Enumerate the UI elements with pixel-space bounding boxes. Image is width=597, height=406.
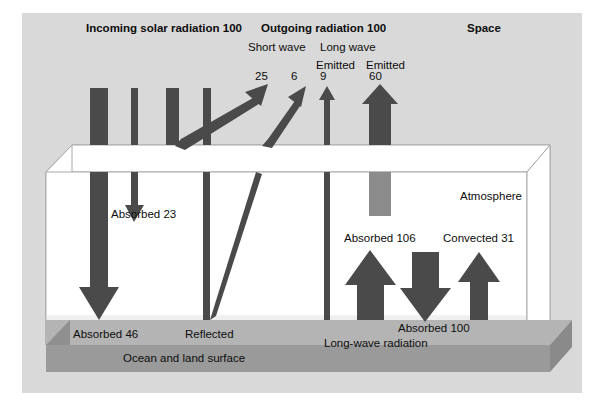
label-long-wave-radiation: Long-wave radiation xyxy=(324,337,428,349)
incoming-bar-1 xyxy=(90,88,108,145)
arrow-emitted-60 xyxy=(362,84,398,145)
incoming-bar-3 xyxy=(166,88,179,145)
header-incoming: Incoming solar radiation 100 xyxy=(86,22,242,34)
header-outgoing: Outgoing radiation 100 xyxy=(261,22,386,34)
label-atmosphere: Atmosphere xyxy=(460,190,522,202)
atmosphere-top-face xyxy=(46,145,550,172)
label-absorbed-100: Absorbed 100 xyxy=(398,322,470,334)
label-convected-31: Convected 31 xyxy=(443,232,514,244)
label-absorbed-46: Absorbed 46 xyxy=(73,328,138,340)
long-wave-bar-60 xyxy=(369,172,391,216)
arrow-short-wave-6 xyxy=(262,86,306,148)
value-emitted-9: 9 xyxy=(320,70,326,82)
value-short-wave-25: 25 xyxy=(255,70,268,82)
label-reflected: Reflected xyxy=(185,328,234,340)
arrow-short-wave-25 xyxy=(175,84,268,150)
atmosphere-right-bevel xyxy=(527,145,550,345)
header-space: Space xyxy=(467,22,501,34)
label-short-wave: Short wave xyxy=(248,41,306,53)
energy-balance-figure: Incoming solar radiation 100 Outgoing ra… xyxy=(0,0,597,406)
solar-beam-main xyxy=(90,172,108,287)
value-short-wave-6: 6 xyxy=(291,70,297,82)
arrow-emitted-9 xyxy=(319,86,335,145)
diagram-canvas xyxy=(0,0,597,406)
label-absorbed-23: Absorbed 23 xyxy=(111,208,176,220)
label-ocean-and-land-surface: Ocean and land surface xyxy=(123,352,245,364)
label-long-wave: Long wave xyxy=(320,41,376,53)
incoming-bar-2 xyxy=(131,88,138,145)
surface-slab-front-face xyxy=(46,345,550,372)
long-wave-bar-9 xyxy=(324,172,330,320)
value-emitted-60: 60 xyxy=(369,70,382,82)
label-absorbed-106: Absorbed 106 xyxy=(344,232,416,244)
